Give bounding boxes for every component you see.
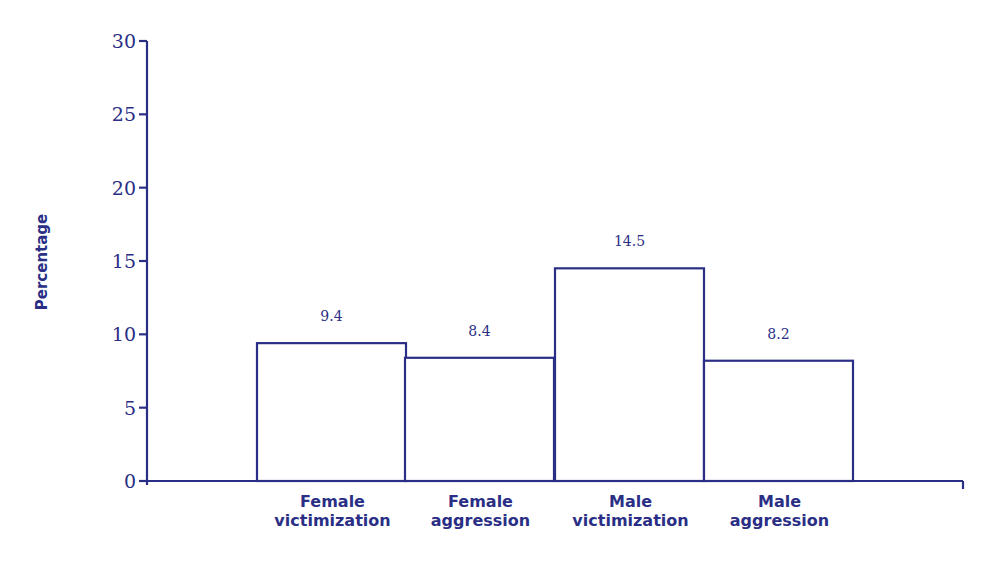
bar-value-label: 8.2 (767, 326, 789, 342)
y-axis-title: Percentage (33, 214, 51, 311)
y-tick-label: 20 (112, 177, 136, 199)
bar-value-label: 8.4 (468, 323, 490, 339)
x-category-label: Male (758, 492, 801, 511)
bar (405, 358, 554, 481)
bar-value-label: 9.4 (320, 308, 342, 324)
bars: 9.48.414.58.2 (257, 233, 853, 481)
bar-chart: Percentage 051015202530 9.48.414.58.2 Fe… (0, 0, 999, 567)
y-tick-label: 0 (124, 470, 136, 492)
x-category-label: aggression (730, 511, 829, 530)
bar (257, 343, 406, 481)
y-tick-label: 15 (112, 250, 136, 272)
category-labels: FemalevictimizationFemaleaggressionMalev… (274, 492, 829, 530)
x-category-label: victimization (572, 511, 688, 530)
bar (704, 361, 853, 481)
y-tick-label: 10 (112, 323, 136, 345)
x-category-label: Female (448, 492, 513, 511)
x-category-label: aggression (431, 511, 530, 530)
x-category-label: Female (300, 492, 365, 511)
x-category-label: victimization (274, 511, 390, 530)
bar-value-label: 14.5 (614, 233, 645, 249)
y-tick-label: 5 (124, 397, 136, 419)
x-category-label: Male (609, 492, 652, 511)
y-tick-label: 25 (112, 103, 136, 125)
y-tick-label: 30 (112, 30, 136, 52)
y-axis-title-group: Percentage (33, 214, 51, 311)
bar (555, 268, 704, 481)
